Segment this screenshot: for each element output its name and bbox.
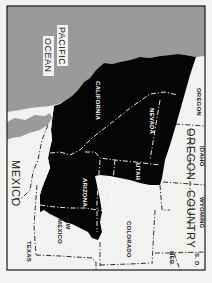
label-california: CALIFORNIA [95,81,101,120]
label-mexico: MEXICO [10,160,22,207]
label-utah: UTAH [135,163,141,180]
historical-map: PACIFIC OCEAN CALIFORNIA NEVADA ARIZONA … [0,0,212,283]
label-south-dakota: S. D. [194,253,200,267]
label-new-mexico-2: MEXICO [57,219,63,244]
svg-text:PACIFIC: PACIFIC [57,27,67,65]
label-texas: TEXAS [26,241,32,262]
label-arizona: ARIZONA [82,178,88,207]
label-new-mexico-1: NEW [65,215,71,230]
label-wyoming: WYOMING [199,197,205,229]
label-colorado: COLORADO [126,221,132,258]
label-oregon-country-2: COUNTRY [185,190,197,248]
label-pacific: PACIFIC [57,25,68,66]
label-nevada: NEVADA [149,108,155,135]
label-oregon-country-1: OREGON [185,128,197,181]
label-idaho: IDAHO [199,146,205,166]
label-ocean: OCEAN [43,36,54,76]
label-nebraska: NEB. [169,251,175,266]
svg-text:OCEAN: OCEAN [43,38,53,73]
label-oregon-state: OREGON [196,88,202,116]
